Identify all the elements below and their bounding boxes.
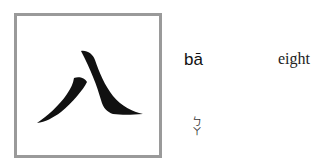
character-card-frame (14, 13, 162, 158)
english-meaning: eight (278, 50, 310, 68)
pinyin-label: bā (184, 50, 203, 70)
hanzi-ba-glyph (17, 16, 159, 155)
zhuyin-final: ㄚ (191, 127, 203, 137)
zhuyin-label: ㄅ ㄚ (191, 117, 203, 137)
